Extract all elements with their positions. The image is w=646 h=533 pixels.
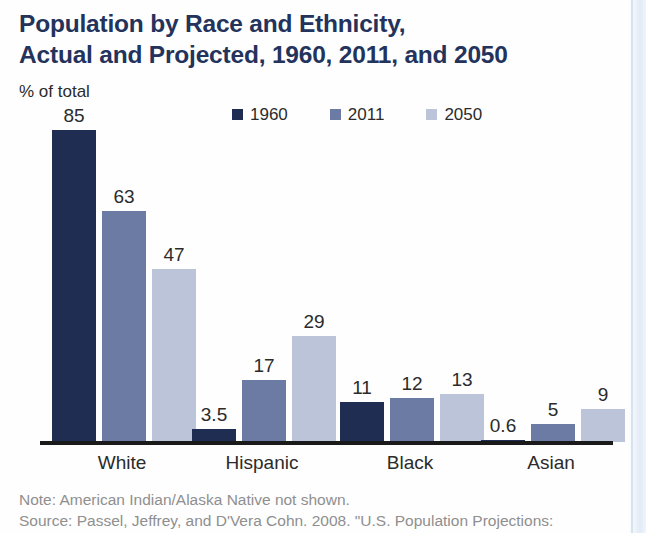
bar-rect bbox=[390, 398, 434, 442]
legend-label-1960: 1960 bbox=[250, 106, 288, 123]
chart-title-line-1: Population by Race and Ethnicity, bbox=[19, 8, 599, 39]
bar-asian-2011[interactable]: 5 bbox=[531, 424, 575, 442]
bar-value-label: 47 bbox=[163, 245, 184, 264]
bar-rect bbox=[152, 269, 196, 442]
bar-white-2050[interactable]: 47 bbox=[152, 269, 196, 442]
legend-swatch-1960 bbox=[232, 109, 243, 120]
chart-footnotes: Note: American Indian/Alaska Native not … bbox=[19, 489, 619, 531]
bar-white-2011[interactable]: 63 bbox=[102, 211, 146, 442]
y-axis-unit-label: % of total bbox=[19, 82, 90, 102]
chart-title-line-2: Actual and Projected, 1960, 2011, and 20… bbox=[19, 39, 599, 70]
category-label-hispanic: Hispanic bbox=[226, 452, 299, 474]
bar-value-label: 9 bbox=[598, 385, 609, 404]
bar-value-label: 63 bbox=[113, 187, 134, 206]
legend-item-2050: 2050 bbox=[426, 106, 482, 123]
bar-rect bbox=[440, 394, 484, 442]
bar-rect bbox=[581, 409, 625, 442]
bar-rect bbox=[52, 130, 96, 442]
bar-white-1960[interactable]: 85 bbox=[52, 130, 96, 442]
bar-black-2011[interactable]: 12 bbox=[390, 398, 434, 442]
footnote-note: Note: American Indian/Alaska Native not … bbox=[19, 489, 619, 510]
bar-hispanic-2011[interactable]: 17 bbox=[242, 380, 286, 442]
legend-swatch-2011 bbox=[330, 109, 341, 120]
legend-label-2011: 2011 bbox=[348, 106, 385, 123]
legend-swatch-2050 bbox=[426, 109, 437, 120]
bar-value-label: 17 bbox=[253, 356, 274, 375]
bar-rect bbox=[242, 380, 286, 442]
bar-value-label: 3.5 bbox=[201, 405, 227, 424]
bar-value-label: 29 bbox=[303, 312, 324, 331]
bar-value-label: 5 bbox=[548, 400, 559, 419]
category-label-white: White bbox=[98, 452, 147, 474]
bar-group-black: 111213 bbox=[340, 130, 484, 442]
bar-hispanic-2050[interactable]: 29 bbox=[292, 336, 336, 442]
bar-group-hispanic: 3.51729 bbox=[192, 130, 336, 442]
legend-item-2011: 2011 bbox=[330, 106, 385, 123]
page-edge-line bbox=[631, 0, 633, 533]
legend-label-2050: 2050 bbox=[444, 106, 482, 123]
bar-rect bbox=[531, 424, 575, 442]
chart-plot-area: 8563473.517291112130.659 bbox=[44, 130, 614, 442]
chart-title: Population by Race and Ethnicity, Actual… bbox=[19, 8, 599, 70]
bar-value-label: 0.6 bbox=[490, 416, 516, 435]
bar-value-label: 85 bbox=[63, 106, 84, 125]
x-axis-category-labels: WhiteHispanicBlackAsian bbox=[44, 452, 614, 478]
bar-group-asian: 0.659 bbox=[481, 130, 625, 442]
category-label-asian: Asian bbox=[527, 452, 575, 474]
bar-value-label: 13 bbox=[451, 370, 472, 389]
bar-black-1960[interactable]: 11 bbox=[340, 402, 384, 442]
bar-rect bbox=[340, 402, 384, 442]
bar-value-label: 12 bbox=[401, 374, 422, 393]
bar-black-2050[interactable]: 13 bbox=[440, 394, 484, 442]
bar-rect bbox=[292, 336, 336, 442]
x-axis-line bbox=[40, 441, 613, 445]
bar-group-white: 856347 bbox=[52, 130, 196, 442]
legend-item-1960: 1960 bbox=[232, 106, 288, 123]
bar-asian-2050[interactable]: 9 bbox=[581, 409, 625, 442]
chart-page: Population by Race and Ethnicity, Actual… bbox=[0, 0, 646, 533]
footnote-source: Source: Passel, Jeffrey, and D'Vera Cohn… bbox=[19, 510, 619, 531]
category-label-black: Black bbox=[387, 452, 433, 474]
chart-legend: 1960 2011 2050 bbox=[232, 106, 482, 123]
bar-rect bbox=[102, 211, 146, 442]
bar-value-label: 11 bbox=[352, 378, 372, 397]
